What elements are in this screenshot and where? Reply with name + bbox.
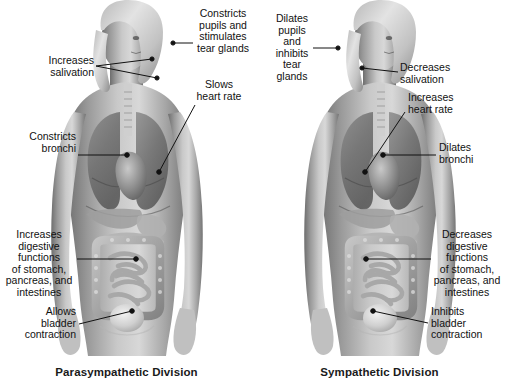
caption-sympathetic: Sympathetic Division bbox=[253, 366, 506, 378]
label-increases-salivation: Increases salivation bbox=[8, 55, 94, 78]
label-dilates-pupils-inhibits-tear-glands: Dilates pupils and inhibits tear glands bbox=[272, 13, 312, 83]
label-increases-digestion: Increases digestive functions of stomach… bbox=[2, 229, 76, 299]
label-constricts-bronchi: Constricts bronchi bbox=[6, 131, 76, 154]
label-increases-heart-rate: Increases heart rate bbox=[408, 92, 470, 115]
label-slows-heart-rate: Slows heart rate bbox=[188, 79, 250, 102]
label-dilates-bronchi: Dilates bronchi bbox=[439, 142, 503, 165]
caption-parasympathetic: Parasympathetic Division bbox=[0, 366, 253, 378]
label-allows-bladder-contraction: Allows bladder contraction bbox=[8, 306, 76, 341]
label-decreases-digestion: Decreases digestive functions of stomach… bbox=[429, 229, 505, 299]
label-inhibits-bladder-contraction: Inhibits bladder contraction bbox=[431, 306, 503, 341]
label-constricts-pupils-tear-glands: Constricts pupils and stimulates tear gl… bbox=[194, 8, 252, 54]
label-decreases-salivation: Decreases salivation bbox=[400, 62, 462, 85]
autonomic-nervous-system-diagram: Parasympathetic Division bbox=[0, 0, 506, 387]
